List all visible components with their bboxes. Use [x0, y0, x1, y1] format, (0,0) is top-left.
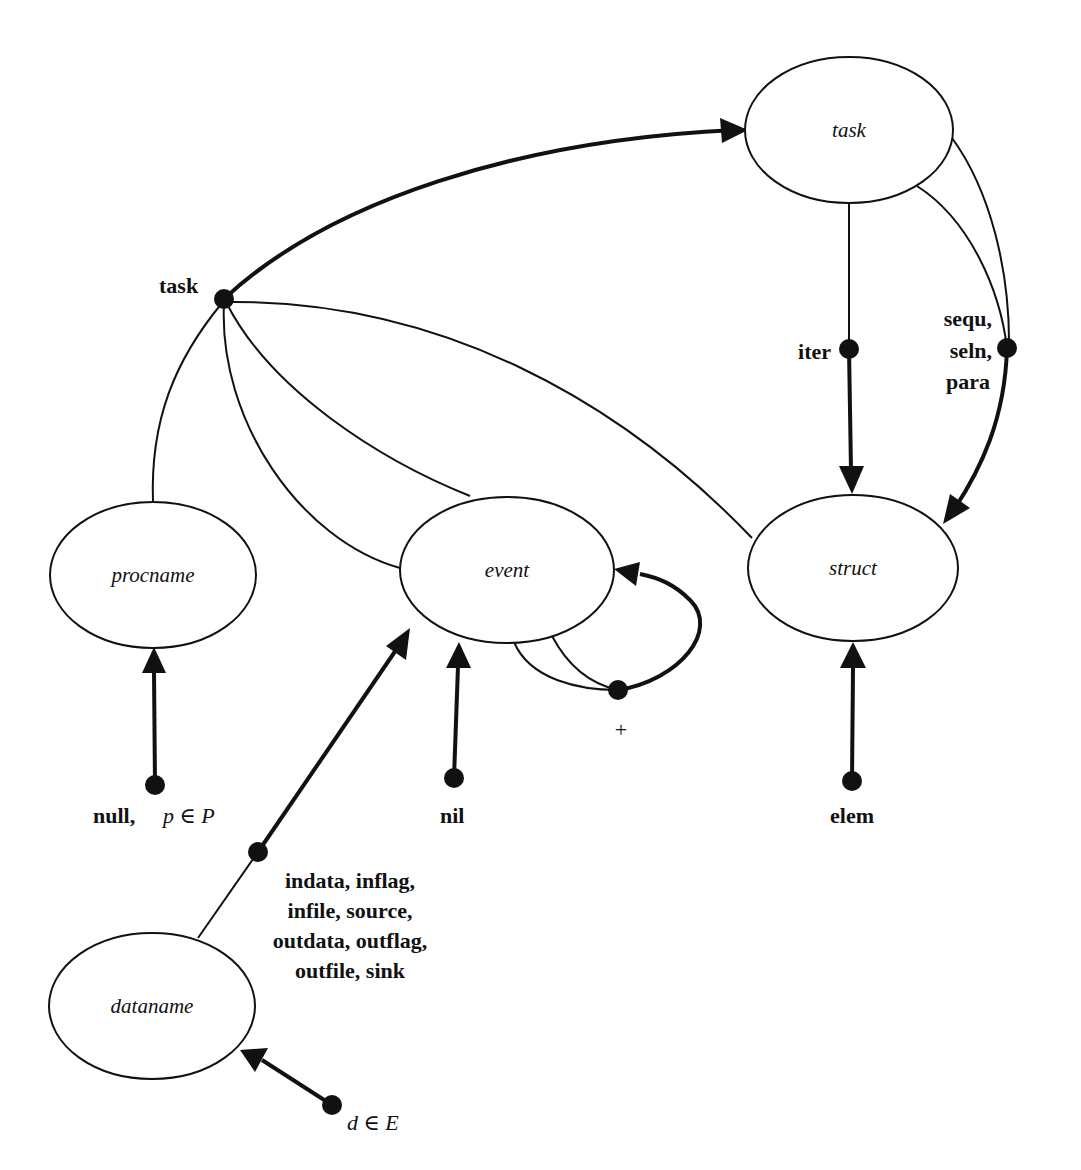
- edge-iter-to-struct: [849, 349, 851, 470]
- arrowhead-event-nil: [446, 642, 471, 668]
- edge-dataname-to-io: [198, 852, 258, 938]
- dot-elem: [842, 771, 862, 791]
- label-plus: +: [615, 717, 627, 742]
- label-iter: iter: [798, 339, 831, 364]
- node-event-label: event: [485, 558, 530, 582]
- label-task-hub: task: [159, 273, 199, 298]
- label-sequ: sequ,: [944, 306, 992, 331]
- arrowhead-procname: [142, 647, 166, 673]
- edge-null-to-procname: [154, 672, 155, 785]
- grammar-graph-diagram: task procname event struct dataname task…: [0, 0, 1081, 1170]
- arrowhead-struct-iter: [839, 466, 864, 494]
- dot-io: [248, 842, 268, 862]
- edge-d-to-dataname: [262, 1060, 332, 1105]
- label-nil: nil: [440, 803, 464, 828]
- node-struct-label: struct: [829, 556, 878, 580]
- edge-hub-to-task: [224, 130, 735, 299]
- edge-hub-to-event-2: [226, 302, 470, 496]
- label-io-line2: infile, source,: [288, 898, 413, 923]
- dot-sequ: [997, 338, 1017, 358]
- node-task: task: [745, 57, 953, 203]
- dot-d: [322, 1095, 342, 1115]
- arrowhead-task: [720, 118, 748, 143]
- label-io-line1: indata, inflag,: [285, 868, 415, 893]
- label-seln: seln,: [950, 338, 992, 363]
- dot-iter: [839, 339, 859, 359]
- edge-nil-to-event: [454, 666, 458, 778]
- node-procname-label: procname: [109, 563, 194, 587]
- edge-hub-to-procname: [153, 303, 222, 502]
- arrowhead-event-plus: [614, 562, 640, 586]
- dot-nil: [444, 768, 464, 788]
- arrowhead-struct-sequ: [943, 494, 970, 524]
- node-dataname: dataname: [49, 933, 255, 1079]
- node-procname: procname: [50, 502, 256, 648]
- label-io-line4: outfile, sink: [295, 958, 406, 983]
- arrowhead-struct-elem: [840, 642, 866, 668]
- dot-task-hub: [214, 289, 234, 309]
- label-p-in-P: p ∈ P: [161, 803, 215, 828]
- node-struct: struct: [748, 495, 958, 641]
- label-para: para: [946, 369, 990, 394]
- label-io-line3: outdata, outflag,: [273, 928, 428, 953]
- arrowhead-event-io: [386, 628, 410, 660]
- edge-io-to-event: [258, 650, 396, 852]
- node-dataname-label: dataname: [111, 994, 194, 1018]
- dot-null: [145, 775, 165, 795]
- label-null: null,: [93, 803, 135, 828]
- dot-plus: [608, 680, 628, 700]
- edge-hub-to-event-1: [224, 303, 400, 568]
- label-elem: elem: [830, 803, 874, 828]
- edge-plus-to-event: [618, 574, 700, 690]
- edge-elem-to-struct: [852, 668, 853, 781]
- edge-event-to-plus-1: [514, 642, 618, 690]
- node-event: event: [400, 497, 614, 643]
- node-task-label: task: [832, 118, 867, 142]
- label-d-in-E: d ∈ E: [347, 1110, 399, 1135]
